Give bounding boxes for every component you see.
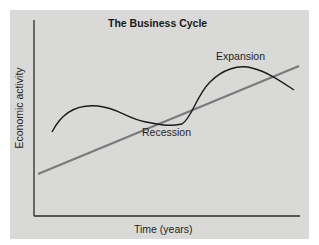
expansion-label: Expansion: [216, 50, 265, 62]
recession-label: Recession: [142, 126, 191, 138]
x-axis-label: Time (years): [134, 223, 193, 235]
chart-title: The Business Cycle: [108, 17, 207, 29]
business-cycle-line: [52, 67, 294, 132]
trend-line: [38, 66, 299, 174]
y-axis-label: Economic activity: [13, 67, 25, 148]
chart-plot: [0, 0, 319, 245]
